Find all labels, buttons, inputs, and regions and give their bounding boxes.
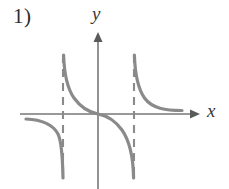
y-axis-arrowhead	[94, 32, 103, 42]
x-axis-label: x	[207, 101, 215, 120]
x-axis-arrowhead	[190, 110, 200, 119]
curve-branch-left	[26, 119, 63, 178]
y-axis-label: y	[92, 4, 100, 23]
y-axis	[94, 32, 103, 189]
graph-canvas	[0, 0, 229, 189]
curve-branch-right	[134, 55, 182, 111]
figure-container: 1) y x	[0, 0, 229, 189]
